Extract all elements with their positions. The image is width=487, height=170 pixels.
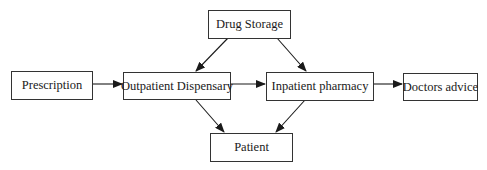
node-inpatient-pharmacy: Inpatient pharmacy	[266, 72, 374, 101]
node-outpatient-dispensary: Outpatient Dispensary	[123, 72, 231, 100]
edge-inpatient-to-patient	[276, 100, 305, 132]
node-doctors-advice: Doctors advice	[403, 73, 478, 101]
edge-outpatient-to-patient	[196, 100, 224, 132]
node-label: Doctors advice	[403, 80, 478, 95]
node-drug-storage: Drug Storage	[208, 10, 291, 39]
node-label: Drug Storage	[216, 17, 283, 32]
node-patient: Patient	[210, 133, 293, 162]
node-label: Inpatient pharmacy	[272, 79, 369, 94]
node-label: Outpatient Dispensary	[121, 79, 233, 94]
node-label: Prescription	[22, 78, 82, 93]
node-prescription: Prescription	[11, 71, 93, 100]
node-label: Patient	[234, 140, 269, 155]
edge-drug-storage-to-inpatient	[277, 38, 306, 71]
edge-drug-storage-to-outpatient	[196, 38, 228, 71]
